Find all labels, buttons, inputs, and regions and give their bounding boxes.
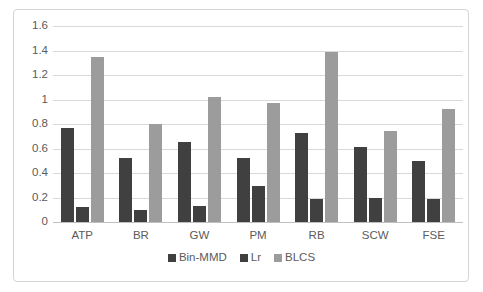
bar-rb-bin-mmd [295,133,308,222]
x-axis-tick-label: RB [287,226,346,244]
y-axis-tick-label: 1.4 [8,45,48,57]
legend-swatch-icon [168,254,176,262]
legend-swatch-icon [240,254,248,262]
legend-item-blcs[interactable]: BLCS [274,252,315,264]
bar-scw-bin-mmd [354,147,367,222]
bar-group [229,26,288,222]
bar-gw-bin-mmd [178,142,191,222]
chart-legend: Bin-MMDLrBLCS [0,252,483,264]
bar-scw-lr [369,198,382,223]
bar-atp-lr [76,207,89,222]
bar-rb-lr [310,199,323,222]
bar-scw-blcs [384,131,397,222]
y-axis-tick-label: 1.6 [8,20,48,32]
y-axis-tick-label: 1 [8,94,48,106]
bar-pm-lr [252,186,265,222]
y-axis-tick-labels: 00.20.40.60.811.21.41.6 [8,26,48,222]
bar-fse-bin-mmd [412,161,425,222]
bar-pm-blcs [267,103,280,222]
x-axis-tick-label: BR [112,226,171,244]
x-axis-tick-label: SCW [346,226,405,244]
bar-pm-bin-mmd [237,158,250,222]
bar-fse-lr [427,199,440,222]
x-axis-tick-labels: ATPBRGWPMRBSCWFSE [53,226,463,244]
legend-swatch-icon [274,254,282,262]
bar-gw-lr [193,206,206,222]
legend-label: Bin-MMD [179,252,227,264]
y-axis-tick-label: 0.4 [8,167,48,179]
bar-br-blcs [149,124,162,222]
bar-atp-bin-mmd [61,128,74,222]
bar-br-bin-mmd [119,158,132,222]
legend-label: BLCS [285,252,315,264]
y-axis-tick-label: 1.2 [8,69,48,81]
bar-fse-blcs [442,109,455,222]
y-axis-tick-label: 0.6 [8,143,48,155]
bar-group [287,26,346,222]
axis-baseline [53,222,463,223]
bar-rb-blcs [325,52,338,222]
x-axis-tick-label: FSE [404,226,463,244]
y-axis-tick-label: 0 [8,216,48,228]
bar-group [404,26,463,222]
y-axis-tick-label: 0.8 [8,118,48,130]
bar-gw-blcs [208,97,221,222]
bar-group [346,26,405,222]
bar-group [170,26,229,222]
y-axis-tick-label: 0.2 [8,192,48,204]
x-axis-tick-label: PM [229,226,288,244]
bar-groups [53,26,463,222]
x-axis-tick-label: ATP [53,226,112,244]
bar-br-lr [134,210,147,222]
bar-group [112,26,171,222]
x-axis-tick-label: GW [170,226,229,244]
bar-atp-blcs [91,57,104,222]
bar-chart-figure: 00.20.40.60.811.21.41.6 ATPBRGWPMRBSCWFS… [0,0,483,292]
legend-item-lr[interactable]: Lr [240,252,261,264]
legend-label: Lr [251,252,261,264]
bar-group [53,26,112,222]
legend-item-bin-mmd[interactable]: Bin-MMD [168,252,227,264]
